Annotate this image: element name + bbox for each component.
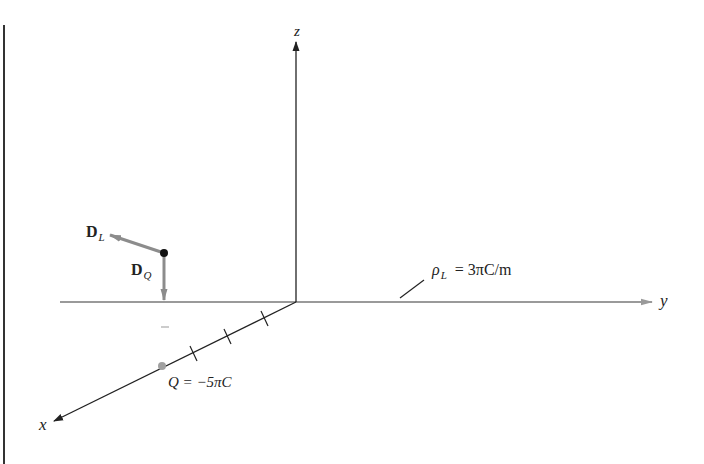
line-charge-label: ρL = 3πC/m — [432, 262, 511, 278]
x-axis-label: x — [39, 416, 47, 433]
d-q-label: DQ — [131, 262, 152, 278]
z-axis-label: z — [294, 24, 300, 39]
d-l-symbol: D — [86, 223, 98, 240]
d-q-subscript: Q — [144, 269, 152, 281]
observation-point — [160, 249, 168, 257]
y-axis-label: y — [660, 292, 668, 309]
x-axis — [54, 302, 296, 421]
line-charge-leader — [400, 280, 424, 298]
d-l-subscript: L — [99, 231, 105, 243]
line-charge-value: = 3πC/m — [455, 261, 512, 278]
d-l-label: DL — [86, 224, 105, 240]
point-charge-label: Q = −5πC — [168, 375, 232, 390]
electrostatics-diagram: z y x ρL = 3πC/m Q = −5πC DL DQ — [0, 0, 704, 464]
d-q-symbol: D — [131, 261, 143, 278]
rho-symbol: ρ — [432, 261, 440, 278]
point-charge-dot — [158, 362, 166, 370]
x-axis-ticks — [190, 311, 268, 361]
rho-subscript: L — [441, 269, 447, 281]
d-l-vector — [110, 235, 164, 253]
